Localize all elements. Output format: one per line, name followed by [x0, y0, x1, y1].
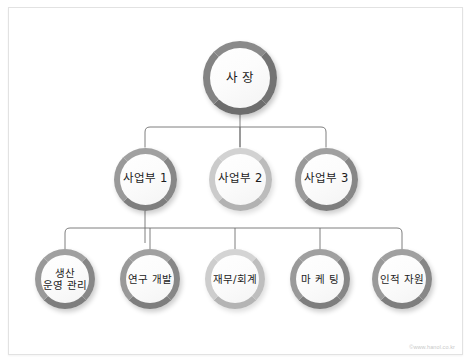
node-research-development[interactable]: 연구 개발	[120, 249, 180, 309]
node-label-human-resources: 인적 자원	[380, 273, 424, 285]
edge-level2-bus	[145, 127, 326, 148]
node-label-division-3: 사업부 3	[304, 172, 349, 186]
node-label-division-1: 사업부 1	[123, 172, 168, 186]
node-human-resources[interactable]: 인적 자원	[372, 249, 432, 309]
node-marketing[interactable]: 마 케 팅	[290, 249, 350, 309]
node-label-marketing: 마 케 팅	[301, 273, 339, 285]
node-label-ceo: 사 장	[226, 71, 255, 86]
node-ceo[interactable]: 사 장	[203, 41, 277, 115]
edge-level3-bus	[65, 228, 402, 249]
node-finance-accounting[interactable]: 재무/회계	[205, 249, 265, 309]
node-label-division-2: 사업부 2	[218, 172, 263, 186]
node-production-operations[interactable]: 생산 운영 관리	[35, 249, 95, 309]
node-division-1[interactable]: 사업부 1	[114, 148, 177, 211]
node-division-2[interactable]: 사업부 2	[209, 148, 272, 211]
watermark-text: ©www.hanol.co.kr	[409, 344, 455, 350]
node-label-research-development: 연구 개발	[128, 273, 172, 285]
node-division-3[interactable]: 사업부 3	[295, 148, 358, 211]
node-label-production-operations: 생산 운영 관리	[43, 267, 87, 292]
org-chart-page: 사 장 사업부 1 사업부 2 사업부 3 생산 운영 관리 연구 개발 재무/…	[0, 0, 472, 364]
node-label-finance-accounting: 재무/회계	[213, 273, 258, 285]
